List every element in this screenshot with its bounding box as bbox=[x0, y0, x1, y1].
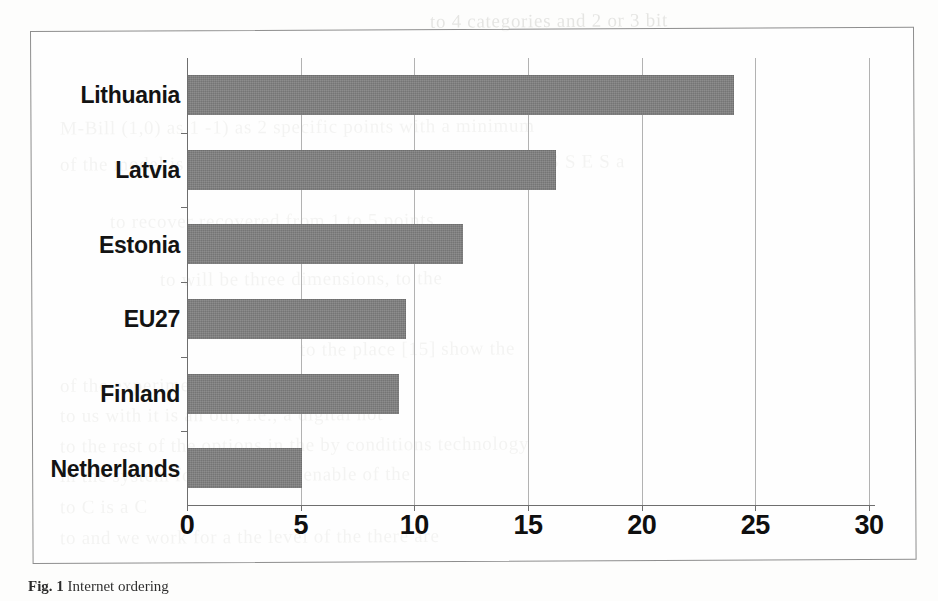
category-axis-labels: LithuaniaLatviaEstoniaEU27FinlandNetherl… bbox=[0, 58, 180, 506]
caption-label: Fig. 1 bbox=[28, 578, 64, 594]
gridline bbox=[869, 58, 870, 506]
gridline bbox=[414, 58, 415, 506]
bar bbox=[188, 299, 406, 339]
caption-text: Internet ordering bbox=[68, 578, 169, 594]
x-axis-tick-label: 25 bbox=[725, 512, 785, 539]
y-axis-tick bbox=[181, 282, 188, 283]
gridline bbox=[301, 58, 302, 506]
scanned-page: LithuaniaLatviaEstoniaEU27FinlandNetherl… bbox=[0, 0, 938, 601]
gridline bbox=[528, 58, 529, 506]
category-axis-label: Finland bbox=[0, 383, 180, 406]
value-axis-tick-labels: 051015202530 bbox=[0, 512, 938, 552]
bar bbox=[188, 374, 399, 414]
category-axis-label: EU27 bbox=[0, 308, 180, 331]
bar bbox=[188, 75, 734, 115]
figure-caption: Fig. 1 Internet ordering bbox=[28, 578, 928, 595]
y-axis-tick bbox=[181, 207, 188, 208]
x-axis-line bbox=[187, 505, 875, 506]
category-axis-label: Latvia bbox=[0, 159, 180, 182]
y-axis-tick bbox=[181, 133, 188, 134]
category-axis-label: Estonia bbox=[0, 234, 180, 257]
y-axis-tick bbox=[181, 357, 188, 358]
x-axis-tick-label: 5 bbox=[271, 512, 331, 539]
x-axis-tick-label: 0 bbox=[157, 512, 217, 539]
x-axis-tick-label: 15 bbox=[498, 512, 558, 539]
category-axis-label: Netherlands bbox=[0, 458, 180, 481]
bar bbox=[188, 448, 302, 488]
bar-chart: LithuaniaLatviaEstoniaEU27FinlandNetherl… bbox=[0, 0, 938, 601]
y-axis-tick bbox=[181, 431, 188, 432]
gridline bbox=[642, 58, 643, 506]
x-axis-tick-label: 10 bbox=[384, 512, 444, 539]
x-axis-tick-label: 30 bbox=[839, 512, 899, 539]
gridline bbox=[755, 58, 756, 506]
bar bbox=[188, 150, 556, 190]
bar bbox=[188, 224, 463, 264]
category-axis-label: Lithuania bbox=[0, 84, 180, 107]
plot-area bbox=[187, 58, 869, 506]
x-axis-tick-label: 20 bbox=[612, 512, 672, 539]
